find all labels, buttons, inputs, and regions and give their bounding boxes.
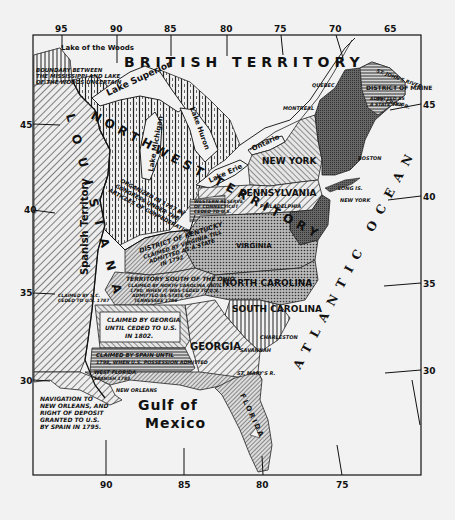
svg-text:UNTIL CEDED TO U.S.: UNTIL CEDED TO U.S.	[105, 324, 177, 331]
tick-right-30: 30	[423, 366, 436, 376]
svg-text:WEST FLORIDA: WEST FLORIDA	[94, 369, 136, 375]
tick-right-35: 35	[423, 279, 436, 289]
svg-text:CLAIMED BY SPAIN UNTIL: CLAIMED BY SPAIN UNTIL	[96, 352, 175, 358]
label-quebec: QUEBEC	[312, 82, 335, 88]
label-philadelphia: PHILADELPHIA	[260, 203, 301, 209]
svg-text:IN 1802.: IN 1802.	[125, 332, 153, 339]
svg-text:SPANISH 1783: SPANISH 1783	[94, 376, 130, 381]
svg-text:GRANTED TO U.S.: GRANTED TO U.S.	[40, 416, 100, 423]
svg-text:A STATE 1820: A STATE 1820	[369, 102, 404, 107]
label-south-carolina: SOUTH CAROLINA	[232, 304, 322, 314]
svg-text:CLAIMED BY GEORGIA: CLAIMED BY GEORGIA	[107, 316, 181, 323]
tick-95: 95	[55, 24, 68, 34]
label-new-york: NEW YORK	[262, 156, 318, 166]
svg-text:NAVIGATION TO: NAVIGATION TO	[40, 395, 93, 402]
label-mexico: Mexico	[145, 415, 206, 431]
tick-right-45: 45	[423, 100, 436, 110]
tick-left-40: 40	[24, 205, 37, 215]
label-st-marys: ST. MARY'S R.	[237, 370, 275, 376]
tick-70: 70	[329, 24, 342, 34]
tick-left-45: 45	[20, 120, 33, 130]
label-montreal: MONTREAL	[283, 105, 314, 111]
label-savannah: SAVANNAH	[240, 347, 272, 353]
label-virginia: VIRGINIA	[236, 242, 272, 250]
tick-left-35: 35	[20, 288, 33, 298]
label-district-of-maine: DISTRICT OF MAINE	[366, 84, 432, 91]
label-city-new-york: NEW YORK	[340, 197, 371, 203]
label-boston: BOSTON	[358, 155, 382, 161]
svg-text:ADMITTED AS: ADMITTED AS	[369, 96, 405, 101]
tick-left-30: 30	[20, 376, 33, 386]
tick-bottom-85: 85	[178, 480, 191, 490]
svg-text:TERRITORY SOUTH OF THE OHIO: TERRITORY SOUTH OF THE OHIO	[126, 275, 235, 282]
tick-right-40: 40	[423, 192, 436, 202]
svg-text:OF THE WOODS UNCERTAIN: OF THE WOODS UNCERTAIN	[36, 79, 122, 85]
tick-bottom-90: 90	[100, 480, 113, 490]
tick-85: 85	[164, 24, 177, 34]
tick-90: 90	[110, 24, 123, 34]
tick-80: 80	[220, 24, 233, 34]
label-pennsylvania: PENNSYLVANIA	[240, 188, 317, 198]
tick-bottom-75: 75	[336, 480, 349, 490]
label-charleston: CHARLESTON	[260, 334, 298, 340]
label-lake-of-the-woods: Lake of the Woods	[61, 44, 134, 52]
svg-text:BY SPAIN IN 1795.: BY SPAIN IN 1795.	[40, 423, 101, 430]
label-georgia: GEORGIA	[190, 341, 241, 352]
label-north-carolina: NORTH CAROLINA	[222, 278, 312, 288]
historical-map: 95 90 85 80 75 70 65 90 85 80 75 45 40 3…	[0, 0, 455, 520]
label-spanish-territory: Spanish Territory	[79, 178, 90, 275]
label-long-island: LONG IS.	[338, 185, 363, 191]
tick-bottom-80: 80	[256, 480, 269, 490]
label-new-orleans: NEW ORLEANS	[116, 387, 158, 393]
svg-text:CEDED TO U.S.: CEDED TO U.S.	[194, 209, 232, 214]
annotation-maine: ADMITTED AS A STATE 1820	[369, 96, 405, 107]
svg-text:NEW ORLEANS, AND: NEW ORLEANS, AND	[40, 402, 108, 409]
tick-65: 65	[384, 24, 397, 34]
svg-text:1798, WHEN U.S. POSSESSION ADM: 1798, WHEN U.S. POSSESSION ADMITTED	[96, 360, 208, 365]
svg-text:TENNESSEE 1796: TENNESSEE 1796	[134, 298, 177, 303]
tick-75: 75	[274, 24, 287, 34]
svg-text:RIGHT OF DEPOSIT: RIGHT OF DEPOSIT	[40, 409, 104, 416]
map-canvas: 95 90 85 80 75 70 65 90 85 80 75 45 40 3…	[0, 0, 455, 520]
svg-text:CEDED TO U.S. 1787: CEDED TO U.S. 1787	[58, 298, 110, 303]
label-gulf-of: Gulf of	[138, 397, 198, 413]
